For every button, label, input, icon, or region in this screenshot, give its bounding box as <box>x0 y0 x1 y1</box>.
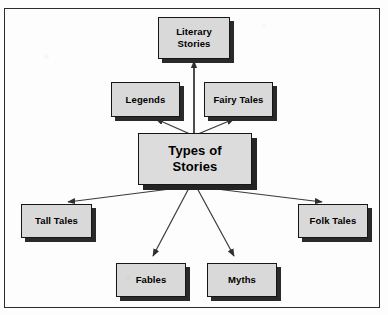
node-fairy-tales-label: Fairy Tales <box>213 94 263 106</box>
edge-center-to-fables <box>153 188 189 256</box>
node-fairy-tales[interactable]: Fairy Tales <box>204 82 273 117</box>
node-fables-label: Fables <box>136 274 167 286</box>
node-types-of-stories-line1: Types of <box>168 143 221 159</box>
node-fables[interactable]: Fables <box>116 263 186 297</box>
node-tall-tales[interactable]: Tall Tales <box>21 204 92 238</box>
edge-center-to-fairy-tales <box>198 119 234 134</box>
node-literary-stories-line2: Stories <box>176 38 212 50</box>
node-folk-tales[interactable]: Folk Tales <box>298 204 368 238</box>
node-folk-tales-label: Folk Tales <box>310 215 357 227</box>
edge-center-to-folk-tales <box>200 187 322 202</box>
edge-center-to-myths <box>197 188 234 256</box>
edge-center-to-legends <box>156 119 190 134</box>
node-literary-stories[interactable]: Literary Stories <box>158 17 230 59</box>
node-literary-stories-line1: Literary <box>176 26 212 38</box>
diagram-canvas: Literary Stories Legends Fairy Tales Typ… <box>0 0 388 315</box>
edge-center-to-tall-tales <box>68 187 186 202</box>
node-myths[interactable]: Myths <box>207 263 277 297</box>
node-legends-label: Legends <box>126 94 166 106</box>
node-myths-label: Myths <box>228 274 256 286</box>
node-tall-tales-label: Tall Tales <box>35 215 78 227</box>
node-types-of-stories-line2: Stories <box>168 159 221 175</box>
node-types-of-stories[interactable]: Types of Stories <box>138 133 252 185</box>
node-legends[interactable]: Legends <box>111 82 180 117</box>
